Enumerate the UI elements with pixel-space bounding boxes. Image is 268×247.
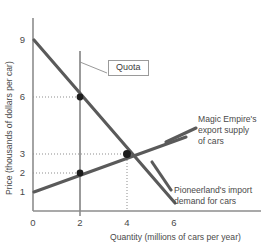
y-tick-label-1: 1 bbox=[20, 186, 25, 197]
supply-annotation-line-3: of cars bbox=[198, 136, 224, 146]
demand-annotation-line-2: demand for cars bbox=[174, 196, 236, 206]
y-axis-title: Price (thousands of dollars per car) bbox=[4, 61, 14, 195]
marker-supply-at-quota bbox=[77, 170, 84, 177]
y-tick-label-9: 9 bbox=[20, 34, 25, 45]
quota-leader-line bbox=[80, 62, 107, 73]
supply-curve bbox=[34, 137, 186, 192]
x-tick-label-0: 0 bbox=[30, 217, 35, 228]
demand-curve bbox=[34, 40, 175, 203]
y-tick-label-2: 2 bbox=[20, 167, 25, 178]
quota-label-box: Quota bbox=[108, 60, 149, 76]
quota-chart: 9 6 3 2 1 0 2 4 6 Price (thousands of do… bbox=[0, 0, 268, 247]
y-tick-label-6: 6 bbox=[20, 91, 25, 102]
y-tick-label-3: 3 bbox=[20, 148, 25, 159]
supply-annotation-line-1: Magic Empire's bbox=[198, 114, 256, 124]
marker-free-trade-equilibrium bbox=[123, 150, 131, 158]
x-tick-label-2: 2 bbox=[77, 217, 82, 228]
x-axis-title: Quantity (millions of cars per year) bbox=[110, 232, 241, 242]
x-tick-label-6: 6 bbox=[171, 217, 176, 228]
x-tick-label-4: 4 bbox=[124, 217, 129, 228]
marker-demand-at-quota bbox=[77, 94, 84, 101]
demand-annotation-line-1: Pioneerland's import bbox=[174, 185, 253, 195]
supply-annotation-line-2: export supply bbox=[198, 125, 250, 135]
chart-plot-area: 9 6 3 2 1 0 2 4 6 Price (thousands of do… bbox=[0, 0, 268, 247]
